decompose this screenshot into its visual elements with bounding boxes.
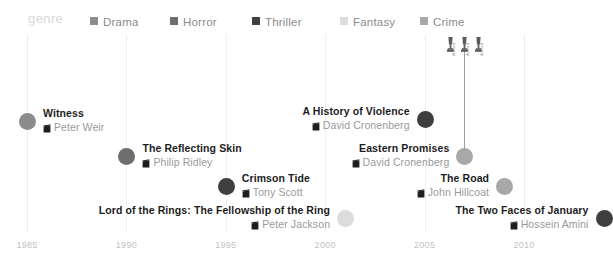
legend-title: genre [28,11,63,26]
film-slate-icon [312,119,320,128]
genre-dot[interactable] [596,210,613,227]
legend-swatch-drama [90,17,98,25]
genre-dot[interactable] [19,113,36,130]
director-name: Peter Weir [54,121,104,134]
axis-tick-label: 2005 [414,240,435,250]
gridline-1985 [27,34,28,232]
film-title: The Road [417,172,489,184]
legend-label: Fantasy [353,16,395,28]
genre-dot[interactable] [337,210,354,227]
director-name: Philip Ridley [153,156,212,169]
genre-dot[interactable] [218,178,235,195]
director-row: Peter Jackson [99,217,330,231]
film-slate-icon [352,156,360,165]
director-row: Hossein Amini [456,217,589,231]
legend-item-fantasy[interactable]: Fantasy [340,12,395,26]
film-title: Crimson Tide [242,172,310,184]
director-name: David Cronenberg [323,119,410,132]
director-row: John Hillcoat [417,185,489,199]
legend-label: Horror [183,16,217,28]
film-labels: Lord of the Rings: The Fellowship of the… [99,204,330,231]
film-labels: Eastern PromisesDavid Cronenberg [352,142,450,169]
award-item[interactable]: Award [458,36,471,53]
film-labels: The RoadJohn Hillcoat [417,172,489,199]
genre-legend: genre DramaHorrorThrillerFantasyCrime [0,8,572,32]
director-name: Hossein Amini [521,218,589,231]
film-slate-icon [510,218,518,227]
film-slate-icon [242,186,250,195]
legend-label: Thriller [265,16,302,28]
director-row: David Cronenberg [302,118,409,132]
gridline-2005 [425,34,426,232]
director-name: Peter Jackson [262,218,330,231]
film-slate-icon [142,156,150,165]
film-title: The Reflecting Skin [142,142,241,154]
award-item[interactable]: Award [444,36,457,53]
film-slate-icon [417,186,425,195]
legend-swatch-crime [420,17,428,25]
axis-tick-label: 2010 [513,240,534,250]
genre-dot[interactable] [417,111,434,128]
film-slate-icon [43,121,51,130]
film-title: Witness [43,107,104,119]
director-row: Peter Weir [43,120,104,134]
film-title: A History of Violence [302,105,409,117]
genre-dot[interactable] [118,148,135,165]
axis-tick-label: 1995 [215,240,236,250]
award-label: Award [451,43,456,56]
gridline-1990 [126,34,127,232]
legend-swatch-horror [170,17,178,25]
award-item[interactable]: Award [472,36,485,53]
film-labels: The Two Faces of JanuaryHossein Amini [456,204,589,231]
film-labels: The Reflecting SkinPhilip Ridley [142,142,241,169]
award-label: Award [465,43,470,56]
legend-item-thriller[interactable]: Thriller [252,12,302,26]
axis-tick-label: 1985 [16,240,37,250]
award-label: Award [479,43,484,56]
director-row: Philip Ridley [142,155,241,169]
gridline-2000 [325,34,326,232]
legend-item-horror[interactable]: Horror [170,12,217,26]
legend-swatch-thriller [252,17,260,25]
axis-tick-label: 2000 [315,240,336,250]
film-labels: Crimson TideTony Scott [242,172,310,199]
genre-dot[interactable] [496,178,513,195]
award-group[interactable]: AwardAwardAward [444,36,486,81]
director-row: Tony Scott [242,185,310,199]
film-labels: WitnessPeter Weir [43,107,104,134]
legend-label: Crime [433,16,465,28]
axis-tick-label: 1990 [116,240,137,250]
film-slate-icon [251,218,259,227]
gridline-2010 [524,34,525,232]
director-row: David Cronenberg [352,155,450,169]
gridline-1995 [226,34,227,232]
legend-item-crime[interactable]: Crime [420,12,465,26]
director-name: John Hillcoat [428,186,489,199]
film-title: Lord of the Rings: The Fellowship of the… [99,204,330,216]
film-title: Eastern Promises [352,142,450,154]
director-name: Tony Scott [253,186,303,199]
legend-item-drama[interactable]: Drama [90,12,139,26]
legend-swatch-fantasy [340,17,348,25]
film-title: The Two Faces of January [456,204,589,216]
film-labels: A History of ViolenceDavid Cronenberg [302,105,409,132]
director-name: David Cronenberg [363,156,450,169]
legend-label: Drama [103,16,139,28]
